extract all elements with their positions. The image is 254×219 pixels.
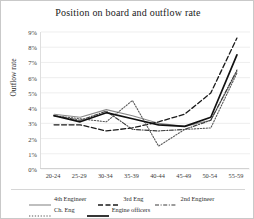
legend-row-bottom: Ch. EngEngine officers [11,204,245,215]
chart-title: Position on board and outflow rate [1,7,254,18]
legend-label: 2nd Engineer [180,195,214,202]
legend-item-4[interactable]: Engine officers [87,206,151,214]
legend-item-3[interactable]: Ch. Eng [29,206,75,214]
y-tick-label: 4% [19,105,37,112]
chart-card: Position on board and outflow rate Outfl… [0,0,254,219]
legend-swatch-icon [98,195,120,203]
plot-area [40,32,249,169]
y-tick-label: 0% [19,166,37,173]
y-tick-label: 1% [19,150,37,157]
series-line-3 [54,73,237,146]
y-tick-label: 7% [19,59,37,66]
y-tick-label: 3% [19,120,37,127]
legend-item-0[interactable]: 4th Engineer [29,195,86,203]
legend-row-top: 4th Engineer3rd Eng2nd Engineer [11,193,245,204]
x-tick-label: 55-59 [229,172,244,179]
legend-swatch-icon [155,195,177,203]
y-tick-label: 2% [19,135,37,142]
legend-label: 3rd Eng [123,195,143,202]
x-tick-label: 20-24 [46,172,61,179]
x-tick-label: 40-44 [150,172,165,179]
x-tick-label: 50-54 [202,172,217,179]
legend-swatch-icon [29,206,51,214]
legend-swatch-icon [29,195,51,203]
legend-label: 4th Engineer [54,195,86,202]
y-tick-label: 8% [19,44,37,51]
y-axis-tick-labels: 0%1%2%3%4%5%6%7%8%9% [19,27,37,174]
y-tick-label: 6% [19,74,37,81]
y-axis-label: Outflow rate [9,48,18,108]
x-tick-label: 25-29 [72,172,87,179]
x-tick-label: 45-49 [176,172,191,179]
legend-item-1[interactable]: 3rd Eng [98,195,143,203]
series-canvas [41,32,250,169]
legend-item-2[interactable]: 2nd Engineer [155,195,214,203]
legend-label: Engine officers [112,206,151,213]
x-tick-label: 35-39 [124,172,139,179]
series-line-4 [54,55,237,127]
legend-swatch-icon [87,206,109,214]
legend-label: Ch. Eng [54,206,75,213]
y-tick-label: 9% [19,29,37,36]
x-axis-tick-labels: 20-2425-2930-3435-3940-4445-4950-5455-59 [40,172,249,186]
x-tick-label: 30-34 [98,172,113,179]
chart-legend: 4th Engineer3rd Eng2nd Engineer Ch. EngE… [11,189,245,216]
y-tick-label: 5% [19,89,37,96]
